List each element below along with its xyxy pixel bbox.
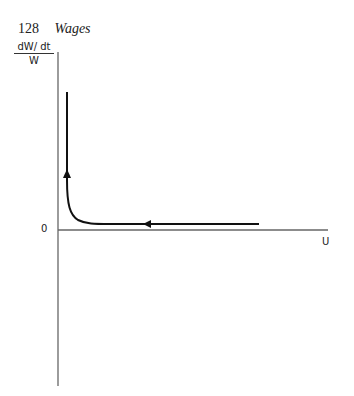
trajectory-curve (67, 92, 259, 224)
up-arrow-icon (63, 169, 71, 178)
left-arrow-icon (143, 220, 151, 228)
chart-plot (0, 0, 354, 396)
